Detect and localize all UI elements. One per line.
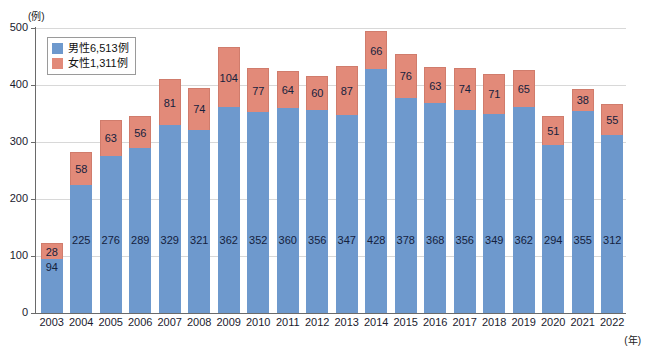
- bar-group[interactable]: 38355: [572, 89, 594, 313]
- gridline: [36, 199, 626, 200]
- bar-value-label-male: 329: [160, 235, 180, 246]
- gridline: [36, 28, 626, 29]
- bar-segment-male[interactable]: 94: [41, 259, 63, 313]
- bar-segment-female[interactable]: 51: [542, 116, 564, 145]
- bar-value-label-male: 289: [130, 235, 150, 246]
- bar-value-label-male: 347: [337, 235, 357, 246]
- bar-value-label-male: 225: [71, 235, 91, 246]
- bar-segment-female[interactable]: 66: [365, 31, 387, 69]
- legend-swatch-female: [52, 58, 63, 69]
- x-tick-label: 2022: [592, 317, 632, 328]
- bar-segment-female[interactable]: 28: [41, 243, 63, 259]
- bar-segment-male[interactable]: 362: [218, 107, 240, 313]
- bar-segment-male[interactable]: 352: [247, 112, 269, 313]
- bar-segment-male[interactable]: 349: [483, 114, 505, 313]
- bar-value-label-male: 321: [189, 235, 209, 246]
- bar-value-label-female: 65: [514, 83, 534, 94]
- bar-value-label-male: 355: [573, 235, 593, 246]
- bar-value-label-female: 71: [484, 89, 504, 100]
- bar-segment-female[interactable]: 58: [70, 152, 92, 185]
- gridline: [36, 85, 626, 86]
- bar-segment-male[interactable]: 225: [70, 185, 92, 313]
- bar-value-label-female: 60: [307, 88, 327, 99]
- bar-value-label-female: 28: [42, 246, 62, 257]
- bar-value-label-male: 362: [219, 235, 239, 246]
- gridline: [36, 256, 626, 257]
- bar-segment-female[interactable]: 63: [424, 67, 446, 103]
- bar-segment-male[interactable]: 362: [513, 107, 535, 313]
- bar-segment-male[interactable]: 356: [454, 110, 476, 313]
- bar-value-label-male: 349: [484, 235, 504, 246]
- stacked-bar-chart: (例) 5004003002001000 2894582256327656289…: [0, 0, 651, 349]
- bar-segment-male[interactable]: 368: [424, 103, 446, 313]
- bar-value-label-male: 428: [366, 235, 386, 246]
- bar-segment-female[interactable]: 55: [601, 104, 623, 135]
- bar-segment-male[interactable]: 360: [277, 108, 299, 313]
- bar-value-label-female: 51: [543, 126, 563, 137]
- bar-group[interactable]: 64360: [277, 71, 299, 313]
- gridline: [36, 142, 626, 143]
- legend-item[interactable]: 男性6,513例: [52, 41, 129, 56]
- bar-segment-female[interactable]: 74: [188, 88, 210, 130]
- bar-value-label-male: 312: [602, 235, 622, 246]
- bar-segment-female[interactable]: 56: [129, 116, 151, 148]
- bar-value-label-male: 352: [248, 235, 268, 246]
- bar-group[interactable]: 66428: [365, 31, 387, 313]
- bar-segment-male[interactable]: 276: [100, 156, 122, 313]
- bar-group[interactable]: 81329: [159, 79, 181, 313]
- bar-value-label-female: 66: [366, 45, 386, 56]
- bar-group[interactable]: 104362: [218, 47, 240, 313]
- bar-value-label-female: 74: [189, 104, 209, 115]
- bar-segment-female[interactable]: 87: [336, 66, 358, 116]
- bar-value-label-male: 362: [514, 235, 534, 246]
- bar-group[interactable]: 65362: [513, 70, 535, 313]
- bar-segment-female[interactable]: 71: [483, 74, 505, 114]
- bar-segment-male[interactable]: 294: [542, 145, 564, 313]
- bar-value-label-male: 378: [396, 235, 416, 246]
- bar-value-label-male: 368: [425, 235, 445, 246]
- legend-item[interactable]: 女性1,311例: [52, 56, 129, 71]
- bar-segment-female[interactable]: 76: [395, 54, 417, 97]
- bar-group[interactable]: 63368: [424, 67, 446, 313]
- bar-segment-female[interactable]: 104: [218, 47, 240, 106]
- bar-segment-male[interactable]: 329: [159, 125, 181, 313]
- bar-segment-male[interactable]: 378: [395, 98, 417, 313]
- bar-group[interactable]: 60356: [306, 76, 328, 313]
- bar-segment-female[interactable]: 65: [513, 70, 535, 107]
- bar-group[interactable]: 71349: [483, 74, 505, 313]
- bar-value-label-male: 94: [42, 262, 62, 273]
- bar-segment-male[interactable]: 321: [188, 130, 210, 313]
- bar-group[interactable]: 56289: [129, 116, 151, 313]
- bar-group[interactable]: 51294: [542, 116, 564, 313]
- bar-segment-female[interactable]: 38: [572, 89, 594, 111]
- bar-value-label-male: 356: [455, 235, 475, 246]
- bar-segment-male[interactable]: 355: [572, 111, 594, 313]
- bar-segment-male[interactable]: 312: [601, 135, 623, 313]
- bar-group[interactable]: 76378: [395, 54, 417, 313]
- bar-group[interactable]: 2894: [41, 243, 63, 313]
- bar-group[interactable]: 74356: [454, 68, 476, 313]
- bar-group[interactable]: 63276: [100, 120, 122, 313]
- bar-segment-male[interactable]: 289: [129, 148, 151, 313]
- bar-group[interactable]: 58225: [70, 152, 92, 313]
- y-axis-unit-label: (例): [28, 8, 45, 23]
- bar-segment-male[interactable]: 428: [365, 69, 387, 313]
- bar-segment-female[interactable]: 81: [159, 79, 181, 125]
- bar-segment-female[interactable]: 60: [306, 76, 328, 110]
- bar-group[interactable]: 55312: [601, 104, 623, 313]
- bar-segment-female[interactable]: 63: [100, 120, 122, 156]
- y-tick-mark: [31, 313, 36, 314]
- bar-group[interactable]: 74321: [188, 88, 210, 313]
- y-tick-label: 200: [0, 193, 28, 204]
- bar-segment-female[interactable]: 74: [454, 68, 476, 110]
- bar-value-label-female: 74: [455, 84, 475, 95]
- bar-segment-male[interactable]: 356: [306, 110, 328, 313]
- bar-segment-male[interactable]: 347: [336, 115, 358, 313]
- bar-group[interactable]: 87347: [336, 66, 358, 313]
- legend-label: 女性1,311例: [68, 58, 128, 69]
- bar-segment-female[interactable]: 77: [247, 68, 269, 112]
- bar-segment-female[interactable]: 64: [277, 71, 299, 107]
- bar-value-label-female: 63: [425, 80, 445, 91]
- bar-value-label-female: 81: [160, 97, 180, 108]
- bar-group[interactable]: 77352: [247, 68, 269, 313]
